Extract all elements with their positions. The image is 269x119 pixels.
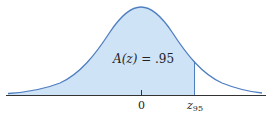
zero-tick-label: 0 (138, 99, 145, 112)
z95-label: z95 (187, 99, 203, 113)
shaded-area (8, 7, 194, 95)
area-label: A(z) = .95 (113, 52, 174, 66)
